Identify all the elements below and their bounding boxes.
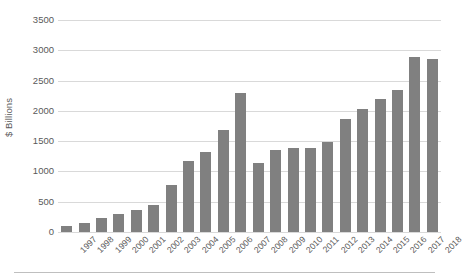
bar[interactable] <box>61 226 72 232</box>
x-tick-label: 2008 <box>270 235 290 255</box>
x-axis-tick-labels: 1997199819992000200120022003200420052006… <box>58 233 441 267</box>
bar[interactable] <box>392 90 403 232</box>
bar[interactable] <box>427 59 438 232</box>
bar[interactable] <box>288 148 299 232</box>
x-tick-label: 2014 <box>374 235 394 255</box>
bar[interactable] <box>166 185 177 232</box>
y-tick-label: 2000 <box>18 106 54 116</box>
x-tick-label: 2007 <box>252 235 272 255</box>
plot-area <box>58 20 441 232</box>
y-tick-label: 500 <box>18 197 54 207</box>
bar-series <box>58 20 441 232</box>
bar[interactable] <box>409 57 420 232</box>
x-tick-label: 2005 <box>218 235 238 255</box>
x-tick-label: 2001 <box>148 235 168 255</box>
bar[interactable] <box>79 223 90 232</box>
bar[interactable] <box>322 142 333 232</box>
bar[interactable] <box>253 163 264 232</box>
x-tick-label: 1997 <box>78 235 98 255</box>
bar[interactable] <box>235 93 246 232</box>
bar[interactable] <box>148 205 159 232</box>
y-tick-label: 1000 <box>18 166 54 176</box>
bar[interactable] <box>375 99 386 232</box>
x-tick-label: 1998 <box>96 235 116 255</box>
x-tick-label: 2017 <box>426 235 446 255</box>
x-tick-label: 2006 <box>235 235 255 255</box>
x-tick-label: 2009 <box>287 235 307 255</box>
x-tick-label: 2016 <box>409 235 429 255</box>
y-axis-title: $ Billions <box>0 0 18 235</box>
y-tick-label: 2500 <box>18 76 54 86</box>
bar[interactable] <box>200 152 211 232</box>
y-axis-tick-labels: 0500100015002000250030003500 <box>18 20 54 232</box>
x-tick-label: 1999 <box>113 235 133 255</box>
x-tick-label: 2015 <box>392 235 412 255</box>
bar[interactable] <box>183 161 194 232</box>
x-tick-label: 2011 <box>322 235 341 254</box>
x-tick-label: 2002 <box>165 235 185 255</box>
bar[interactable] <box>270 150 281 232</box>
x-tick-label: 2012 <box>339 235 359 255</box>
bar[interactable] <box>305 148 316 232</box>
bottom-divider-rule <box>14 272 435 273</box>
bar[interactable] <box>131 210 142 232</box>
bar[interactable] <box>113 214 124 232</box>
bar[interactable] <box>96 218 107 232</box>
y-tick-label: 1500 <box>18 136 54 146</box>
x-tick-label: 2000 <box>131 235 151 255</box>
y-tick-label: 0 <box>18 227 54 237</box>
bar[interactable] <box>340 119 351 232</box>
bar[interactable] <box>218 130 229 232</box>
y-tick-label: 3000 <box>18 45 54 55</box>
x-tick-label: 2004 <box>200 235 220 255</box>
bar[interactable] <box>357 109 368 232</box>
x-tick-label: 2018 <box>444 235 464 255</box>
y-axis-title-label: $ Billions <box>4 98 15 137</box>
y-tick-label: 3500 <box>18 15 54 25</box>
x-tick-label: 2013 <box>357 235 377 255</box>
x-tick-label: 2003 <box>183 235 203 255</box>
